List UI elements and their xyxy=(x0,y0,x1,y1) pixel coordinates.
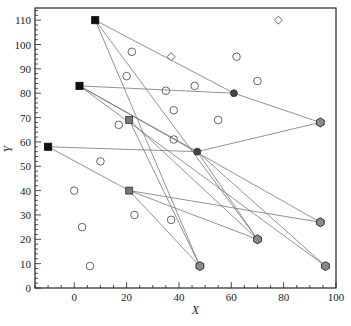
y-tick-label: 90 xyxy=(20,63,32,75)
hubs-marker xyxy=(230,90,237,97)
sources-marker xyxy=(45,143,52,150)
customers-marker xyxy=(170,106,178,114)
connection-line xyxy=(197,152,325,266)
open-diamonds-marker xyxy=(274,16,282,24)
hubs-marker xyxy=(194,148,201,155)
customers-marker xyxy=(123,72,131,80)
connection-line xyxy=(129,191,257,240)
connection-line xyxy=(79,86,325,266)
y-tick-label: 20 xyxy=(20,233,32,245)
x-tick-label: 0 xyxy=(72,291,78,303)
y-tick-label: 40 xyxy=(20,185,32,197)
x-tick-label: 60 xyxy=(226,291,238,303)
y-tick-label: 60 xyxy=(20,136,32,148)
y-tick-label: 110 xyxy=(15,14,32,26)
x-axis-title: X xyxy=(191,303,200,317)
depots-marker xyxy=(322,262,330,271)
open-diamonds-marker xyxy=(167,53,175,61)
customers-marker xyxy=(214,116,222,124)
customers-marker xyxy=(97,158,105,166)
connection-line xyxy=(95,20,200,266)
connection-line xyxy=(79,86,233,93)
intermediate-squares-marker xyxy=(126,187,133,194)
customers-marker xyxy=(162,87,170,95)
customers-marker xyxy=(128,48,136,56)
x-tick-label: 40 xyxy=(173,291,185,303)
customers-marker xyxy=(86,262,94,270)
x-tick-label: 80 xyxy=(278,291,290,303)
connection-lines xyxy=(48,20,325,266)
depots-marker xyxy=(316,118,324,127)
connection-line xyxy=(197,122,320,151)
connection-line xyxy=(129,120,200,266)
y-axis-ticks: 0102030405060708090100110 xyxy=(15,10,42,294)
customers-marker xyxy=(70,187,78,195)
y-tick-label: 30 xyxy=(20,209,32,221)
y-tick-label: 50 xyxy=(20,160,32,172)
connection-line xyxy=(95,20,257,239)
customers-marker xyxy=(167,216,175,224)
y-tick-label: 70 xyxy=(20,112,32,124)
y-tick-label: 100 xyxy=(15,39,32,51)
connection-line xyxy=(95,20,234,93)
customers-marker xyxy=(191,82,199,90)
y-tick-label: 80 xyxy=(20,87,32,99)
connection-line xyxy=(234,93,320,122)
connection-line xyxy=(129,191,200,266)
connection-line xyxy=(129,120,257,239)
y-axis-title: Y xyxy=(1,145,15,153)
customers-marker xyxy=(131,211,139,219)
customers-marker xyxy=(254,77,262,85)
y-tick-label: 0 xyxy=(26,282,32,294)
scatter-chart: 020406080100 0102030405060708090100110 X… xyxy=(0,0,351,326)
customers-marker xyxy=(78,223,86,231)
sources-marker xyxy=(76,82,83,89)
data-markers xyxy=(45,16,330,270)
customers-marker xyxy=(233,53,241,61)
x-axis-ticks: 020406080100 xyxy=(35,282,345,303)
x-tick-label: 20 xyxy=(121,291,133,303)
connection-line xyxy=(197,152,257,240)
depots-marker xyxy=(316,218,324,227)
intermediate-squares-marker xyxy=(126,117,133,124)
connection-line xyxy=(48,147,129,191)
y-tick-label: 10 xyxy=(20,258,32,270)
sources-marker xyxy=(92,17,99,24)
depots-marker xyxy=(196,262,204,271)
connection-line xyxy=(48,147,197,152)
x-tick-label: 100 xyxy=(328,291,345,303)
depots-marker xyxy=(254,235,262,244)
customers-marker xyxy=(115,121,123,129)
